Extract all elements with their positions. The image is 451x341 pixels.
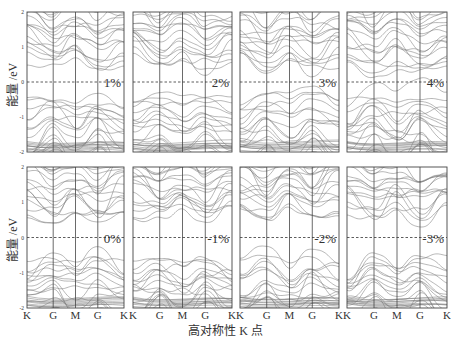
y-axis-label-bottom: 能量 /eV (3, 218, 21, 262)
k-point-label: K (443, 309, 451, 321)
strain-label: 1% (104, 75, 122, 90)
k-point-label: K (120, 309, 128, 321)
k-point-label: K (129, 309, 137, 321)
k-point-label: G (156, 309, 164, 321)
k-point-label: K (343, 309, 351, 321)
band-panel: 1% (27, 0, 124, 172)
k-point-label: K (23, 309, 31, 321)
strain-label: -3% (422, 231, 444, 246)
k-point-label: K (236, 309, 244, 321)
band-panel: -1% (133, 144, 232, 330)
k-point-label: K (335, 309, 343, 321)
y-tick-label: 0 (21, 79, 24, 85)
strain-label: 0% (104, 231, 122, 246)
band-panel: 2% (133, 0, 232, 176)
k-point-label: G (416, 309, 424, 321)
y-tick-label: 2 (21, 164, 24, 170)
k-point-label: G (94, 309, 102, 321)
y-tick-label: -1 (19, 114, 24, 120)
band-panel: -3% (347, 146, 447, 331)
band-panel: 0% (27, 154, 124, 324)
k-point-label: M (178, 309, 188, 321)
k-point-label: M (71, 309, 81, 321)
band-structure-figure: 1%210-1-22%3%4%0%210-1-2-1%-2%-3% (0, 0, 451, 341)
k-point-label: G (201, 309, 209, 321)
band-panel: 4% (347, 0, 447, 174)
band-panel: 3% (240, 0, 339, 174)
y-tick-label: 2 (21, 9, 24, 15)
strain-label: -1% (207, 231, 229, 246)
y-tick-label: 0 (21, 235, 24, 241)
k-point-label: K (228, 309, 236, 321)
strain-label: 4% (427, 75, 445, 90)
k-point-label: G (308, 309, 316, 321)
k-point-label: G (263, 309, 271, 321)
y-axis-label-top: 能量 /eV (3, 63, 21, 107)
y-tick-label: 1 (21, 44, 24, 50)
band-panel: -2% (240, 133, 339, 328)
y-tick-label: 1 (21, 199, 24, 205)
k-point-label: M (285, 309, 295, 321)
k-point-label: G (370, 309, 378, 321)
y-tick-label: -2 (19, 149, 24, 155)
strain-label: -2% (314, 231, 336, 246)
strain-label: 2% (212, 75, 230, 90)
x-axis-label: 高对称性 K 点 (0, 321, 451, 339)
k-point-label: M (392, 309, 402, 321)
y-tick-label: -1 (19, 270, 24, 276)
k-point-label: G (49, 309, 57, 321)
strain-label: 3% (319, 75, 337, 90)
